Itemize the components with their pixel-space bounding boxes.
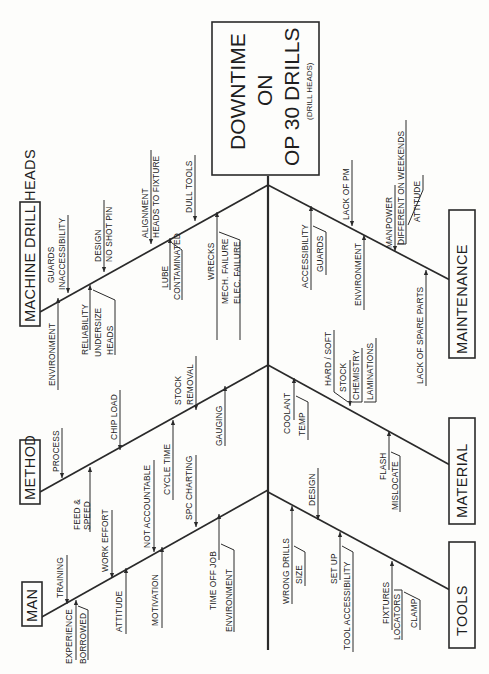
category-maintenance: MAINTENANCE xyxy=(449,210,475,358)
svg-text:MAINTENANCE: MAINTENANCE xyxy=(454,244,470,354)
cause-attitude: ATTITUDE xyxy=(412,181,422,222)
cause-lack-of-spare-parts: LACK OF SPARE PARTS xyxy=(415,286,425,384)
cause-stock: STOCK xyxy=(338,362,348,392)
cause-mislocate: MISLOCATE xyxy=(390,461,400,510)
svg-text:MATERIAL: MATERIAL xyxy=(454,443,470,518)
category-man: MAN xyxy=(22,582,42,626)
svg-text:TOOLS: TOOLS xyxy=(454,585,470,636)
cause-no-shot-pin: NO SHOT PIN xyxy=(104,207,114,262)
cause-feed: FEED & xyxy=(72,499,82,530)
cause-mech-failure: MECH. FAILURE xyxy=(220,238,230,304)
svg-text:MAN: MAN xyxy=(24,589,40,622)
cause-contaminated: CONTAMINATED xyxy=(172,233,182,300)
cause-removal: REMOVAL xyxy=(185,364,195,405)
cause-process: PROCESS xyxy=(51,430,61,472)
cause-attitude: ATTITUDE xyxy=(114,591,124,632)
cause-speed: SPEED xyxy=(82,501,92,530)
cause-environment: ENVIRONMENT xyxy=(224,569,234,632)
cause-environment: ENVIRONMENT xyxy=(353,243,363,306)
cause-design: DESIGN xyxy=(307,473,317,506)
cause-guards: GUARDS xyxy=(315,235,325,272)
cause-gauging: GAUGING xyxy=(214,406,224,446)
effect-line-4: (DRILL HEADS) xyxy=(305,62,314,120)
cause-guards: GUARDS xyxy=(46,246,56,283)
svg-text:MACHINE DRILL HEADS: MACHINE DRILL HEADS xyxy=(22,149,38,322)
cause-coolant: COOLANT xyxy=(282,393,292,434)
cause-accessibility: ACCESSIBILITY xyxy=(300,224,310,288)
causes-machine-drill-heads: ENVIRONMENT GUARDS INACCESSIBILITY RELIA… xyxy=(46,150,242,390)
cause-cycle-time: CYCLE TIME xyxy=(162,444,172,495)
cause-manpower: MANPOWER xyxy=(384,197,394,248)
cause-dull-tools: DULL TOOLS xyxy=(184,160,194,213)
cause-hard-soft: HARD / SOFT xyxy=(323,332,333,386)
cause-design: DESIGN xyxy=(93,229,103,262)
cause-reliability: RELIABILITY xyxy=(80,304,90,355)
causes-method: PROCESS FEED & SPEED CHIP LOAD CYCLE TIM… xyxy=(51,356,225,532)
cause-spc-charting: SPC CHARTING xyxy=(184,456,194,520)
cause-motivation: MOTIVATION xyxy=(150,574,160,626)
cause-laminations: LAMINATIONS xyxy=(365,342,375,400)
cause-inaccessibility: INACCESSIBILITY xyxy=(57,217,67,290)
effect-line-2: ON xyxy=(253,75,276,107)
causes-material: COOLANT TEMP HARD / SOFT STOCK CHEMISTRY… xyxy=(282,330,400,512)
category-method: METHOD xyxy=(20,435,40,504)
cause-lube: LUBE xyxy=(160,265,170,288)
cause-clamp: CLAMP xyxy=(409,598,419,628)
cause-size: SIZE xyxy=(294,565,304,584)
cause-locators: LOCATORS xyxy=(392,594,402,640)
cause-elec-failure: ELEC. FAILURE xyxy=(232,241,242,304)
cause-heads-to-fixture: HEADS TO FIXTURE xyxy=(151,155,161,238)
cause-experience: EXPERIENCE xyxy=(64,609,74,664)
cause-chip-load: CHIP LOAD xyxy=(109,394,119,440)
cause-fixtures: FIXTURES xyxy=(381,581,391,624)
cause-alignment: ALIGNMENT xyxy=(140,188,150,238)
cause-training: TRAINING xyxy=(55,557,65,598)
cause-wrecks: WRECKS xyxy=(206,242,216,280)
cause-temp: TEMP xyxy=(297,412,307,436)
effect-box: DOWNTIME ON OP 30 DRILLS (DRILL HEADS) xyxy=(212,22,319,175)
cause-lack-of-pm: LACK OF PM xyxy=(341,168,351,220)
cause-different-on-weekends: DIFFERENT ON WEEKENDS xyxy=(396,131,406,245)
cause-stock: STOCK xyxy=(173,375,183,405)
svg-text:METHOD: METHOD xyxy=(22,435,38,500)
cause-tool-accessibility: TOOL ACCESSIBILITY xyxy=(342,561,352,650)
cause-set-up: SET UP xyxy=(329,553,339,584)
cause-heads: HEADS xyxy=(105,325,115,355)
cause-environment: ENVIRONMENT xyxy=(47,323,57,386)
cause-flash: FLASH xyxy=(378,453,388,481)
category-tools: TOOLS xyxy=(449,542,475,648)
cause-time-off-job: TIME OFF JOB xyxy=(208,551,218,610)
cause-chemistry: CHEMISTRY xyxy=(351,350,361,400)
fishbone-diagram: DOWNTIME ON OP 30 DRILLS (DRILL HEADS) M… xyxy=(0,0,489,674)
cause-work-effort: WORK EFFORT xyxy=(100,509,110,572)
category-machine-drill-heads: MACHINE DRILL HEADS xyxy=(20,149,40,326)
cause-borrowed: BORROWED xyxy=(78,613,88,664)
cause-not-accountable: NOT ACCOUNTABLE xyxy=(142,465,152,548)
cause-undersize: UNDERSIZE xyxy=(93,307,103,357)
effect-line-1: DOWNTIME xyxy=(226,33,249,150)
effect-line-3: OP 30 DRILLS xyxy=(280,27,303,166)
category-material: MATERIAL xyxy=(449,418,475,524)
cause-wrong-drills: WRONG DRILLS xyxy=(281,538,291,604)
